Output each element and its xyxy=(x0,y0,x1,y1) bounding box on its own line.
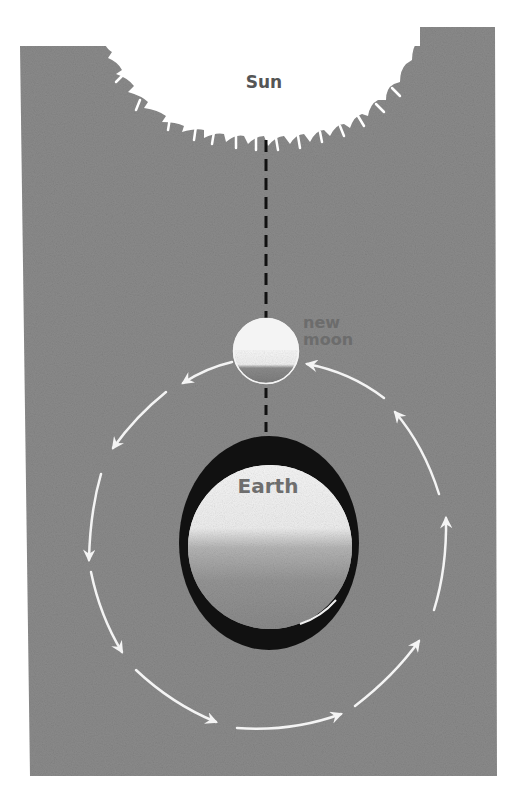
new-moon-label-line1: new xyxy=(303,314,363,331)
new-moon-label-line2: moon xyxy=(303,331,363,348)
earth xyxy=(179,436,359,650)
new-moon-label: new moon xyxy=(303,314,363,348)
space-background-panel xyxy=(20,27,497,776)
new-moon-diagram xyxy=(0,0,523,796)
earth-label: Earth xyxy=(228,474,308,498)
sun-label: Sun xyxy=(234,72,294,92)
